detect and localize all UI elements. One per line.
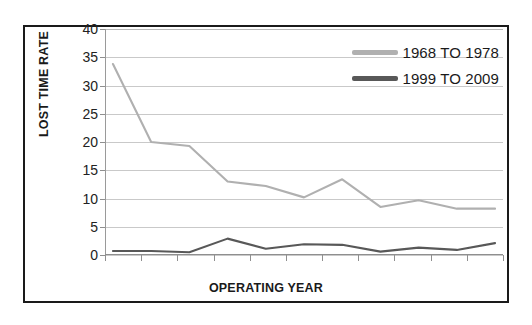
chart-legend: 1968 TO 1978 1999 TO 2009 bbox=[352, 39, 499, 91]
y-tick-label-30: 30 bbox=[82, 79, 98, 93]
y-tick-mark-15 bbox=[100, 170, 105, 171]
x-tick-mark-5 bbox=[286, 255, 287, 261]
legend-swatch-1 bbox=[352, 76, 398, 81]
x-tick-mark-11 bbox=[503, 255, 504, 261]
y-tick-mark-20 bbox=[100, 142, 105, 143]
x-tick-mark-6 bbox=[322, 255, 323, 261]
y-tick-mark-5 bbox=[100, 227, 105, 228]
y-axis-title: LOST TIME RATE bbox=[37, 9, 55, 159]
y-tick-mark-40 bbox=[100, 29, 105, 30]
x-tick-mark-9 bbox=[431, 255, 432, 261]
y-tick-mark-10 bbox=[100, 199, 105, 200]
y-tick-label-5: 5 bbox=[90, 220, 98, 234]
y-tick-mark-35 bbox=[100, 57, 105, 58]
legend-swatch-0 bbox=[352, 50, 398, 55]
legend-label-0: 1968 TO 1978 bbox=[402, 44, 499, 61]
y-tick-mark-0 bbox=[100, 255, 105, 256]
x-tick-mark-2 bbox=[177, 255, 178, 261]
y-tick-label-0: 0 bbox=[90, 248, 98, 262]
y-tick-label-25: 25 bbox=[82, 107, 98, 121]
x-tick-mark-0 bbox=[105, 255, 106, 261]
y-tick-label-10: 10 bbox=[82, 192, 98, 206]
x-tick-mark-4 bbox=[250, 255, 251, 261]
y-tick-label-40: 40 bbox=[82, 22, 98, 36]
x-tick-mark-3 bbox=[214, 255, 215, 261]
y-tick-label-20: 20 bbox=[82, 135, 98, 149]
chart-figure: LOST TIME RATE 0510152025303540 1968 TO … bbox=[23, 25, 509, 303]
x-tick-mark-7 bbox=[358, 255, 359, 261]
y-tick-mark-25 bbox=[100, 114, 105, 115]
legend-item-1[interactable]: 1999 TO 2009 bbox=[352, 65, 499, 91]
series-line-1 bbox=[113, 239, 495, 253]
x-tick-mark-1 bbox=[141, 255, 142, 261]
y-tick-label-15: 15 bbox=[82, 163, 98, 177]
y-tick-label-35: 35 bbox=[82, 50, 98, 64]
x-tick-mark-10 bbox=[467, 255, 468, 261]
x-tick-mark-8 bbox=[394, 255, 395, 261]
legend-label-1: 1999 TO 2009 bbox=[402, 70, 499, 87]
legend-item-0[interactable]: 1968 TO 1978 bbox=[352, 39, 499, 65]
gridline-0 bbox=[105, 255, 503, 256]
y-tick-mark-30 bbox=[100, 86, 105, 87]
x-axis-title: OPERATING YEAR bbox=[25, 281, 507, 295]
